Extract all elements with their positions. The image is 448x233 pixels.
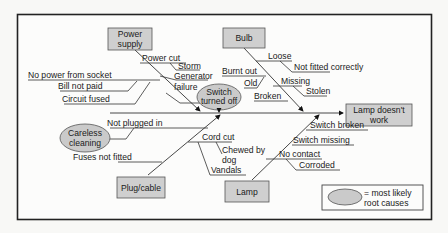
legend: = most likely root causes <box>322 185 423 210</box>
cause-generator-2: failure <box>174 82 198 92</box>
cause-chewed: Chewed by <box>222 145 266 155</box>
category-plug-cable: Plug/cable <box>117 177 165 198</box>
cause-no-contact: No contact <box>279 149 321 159</box>
cause-not-plugged: Not plugged in <box>107 118 163 128</box>
svg-text:= most likely: = most likely <box>364 188 412 198</box>
cause-loose: Loose <box>268 51 292 61</box>
cause-bill: Bill not paid <box>58 81 103 91</box>
cause-generator: Generator <box>174 71 213 81</box>
cause-not-fitted: Not fitted correctly <box>294 62 364 72</box>
cause-circuit: Circuit fused <box>62 94 110 104</box>
root-cause-careless-cleaning: Careless cleaning <box>60 124 110 152</box>
cause-burnt-out: Burnt out <box>222 66 257 76</box>
fishbone-diagram: Lamp doesn't work Power supply Power cut… <box>0 0 448 233</box>
cause-storm: Storm <box>178 61 201 71</box>
svg-text:turned off: turned off <box>201 96 238 106</box>
svg-text:Lamp: Lamp <box>236 187 258 197</box>
cause-switch-missing: Switch missing <box>293 135 350 145</box>
cause-switch-broken: Switch broken <box>310 120 364 130</box>
cause-chewed-2: dog <box>222 155 237 165</box>
cause-cord-cut: Cord cut <box>202 132 235 142</box>
cause-old: Old <box>244 78 258 88</box>
cause-fuses: Fuses not fitted <box>73 152 132 162</box>
cause-corroded: Corroded <box>299 160 335 170</box>
svg-text:supply: supply <box>118 39 144 49</box>
legend-swatch <box>328 189 362 205</box>
svg-text:root causes: root causes <box>364 198 408 208</box>
svg-text:cleaning: cleaning <box>69 138 101 148</box>
cause-power-cut: Power cut <box>142 53 181 63</box>
category-power-supply: Power supply <box>108 28 152 50</box>
svg-text:Power: Power <box>118 29 142 39</box>
svg-text:Careless: Careless <box>68 128 102 138</box>
cause-vandals: Vandals <box>211 165 241 175</box>
category-lamp: Lamp <box>225 181 269 202</box>
category-bulb: Bulb <box>223 28 265 48</box>
cause-missing: Missing <box>281 76 310 86</box>
svg-text:Bulb: Bulb <box>235 33 252 43</box>
cause-broken: Broken <box>254 91 281 101</box>
root-cause-switch-turned-off: Switch turned off <box>197 84 241 110</box>
svg-text:Plug/cable: Plug/cable <box>121 183 161 193</box>
svg-text:work: work <box>369 115 389 125</box>
cause-no-power: No power from socket <box>28 70 112 80</box>
svg-text:Lamp doesn't: Lamp doesn't <box>353 105 405 115</box>
cause-stolen: Stolen <box>306 86 331 96</box>
